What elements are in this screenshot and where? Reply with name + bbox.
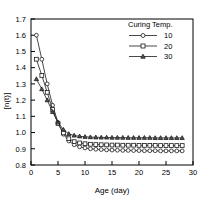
marker-circle	[78, 145, 82, 149]
marker-square	[110, 143, 114, 147]
marker-square	[170, 144, 174, 148]
marker-circle	[89, 147, 93, 151]
marker-triangle	[83, 135, 87, 139]
x-tick-label: 25	[162, 168, 170, 177]
marker-circle	[45, 82, 49, 86]
marker-square	[121, 143, 125, 147]
marker-circle	[141, 34, 145, 38]
marker-square	[132, 143, 136, 147]
marker-square	[94, 143, 98, 147]
marker-circle	[159, 149, 163, 153]
marker-square	[72, 140, 76, 144]
marker-triangle	[169, 136, 173, 140]
marker-triangle	[72, 133, 76, 137]
y-tick-label: 1.6	[16, 31, 26, 40]
marker-triangle	[45, 98, 49, 102]
marker-circle	[164, 149, 168, 153]
marker-triangle	[105, 135, 109, 139]
legend-label: 10	[164, 31, 172, 40]
marker-circle	[148, 149, 152, 153]
line-chart: 0.80.91.01.11.21.31.41.51.61.7 051015202…	[0, 0, 206, 213]
series-line	[36, 59, 182, 145]
y-tick-label: 1.5	[16, 47, 26, 56]
y-tick-label: 1.2	[16, 96, 26, 105]
marker-square	[116, 143, 120, 147]
legend: Curing Temp.102030	[128, 20, 172, 61]
marker-circle	[121, 149, 125, 153]
marker-circle	[83, 146, 87, 150]
y-tick-label: 0.8	[16, 161, 26, 170]
marker-triangle	[142, 136, 146, 140]
marker-square	[45, 90, 49, 94]
marker-triangle	[164, 136, 168, 140]
marker-triangle	[153, 136, 157, 140]
marker-circle	[40, 57, 44, 61]
marker-circle	[175, 149, 179, 153]
legend-label: 20	[164, 42, 172, 51]
marker-square	[78, 141, 82, 145]
figure-container: 0.80.91.01.11.21.31.41.51.61.7 051015202…	[0, 0, 206, 213]
series-line	[36, 79, 182, 138]
marker-square	[180, 144, 184, 148]
marker-square	[148, 143, 152, 147]
marker-square	[35, 57, 39, 61]
marker-circle	[35, 33, 39, 37]
x-tick-label: 30	[189, 168, 197, 177]
x-tick-label: 10	[81, 168, 89, 177]
marker-circle	[143, 149, 147, 153]
series-10	[35, 33, 185, 152]
marker-triangle	[99, 135, 103, 139]
series-30	[34, 77, 184, 140]
marker-triangle	[34, 77, 38, 81]
x-tick-label: 20	[135, 168, 143, 177]
marker-square	[67, 137, 71, 141]
y-tick-label: 1.1	[16, 112, 26, 121]
marker-square	[99, 143, 103, 147]
y-tick-label: 1.3	[16, 80, 26, 89]
marker-triangle	[126, 136, 130, 140]
series-layer	[34, 33, 184, 152]
marker-square	[175, 144, 179, 148]
marker-triangle	[175, 136, 179, 140]
marker-square	[164, 144, 168, 148]
marker-square	[105, 143, 109, 147]
x-tick-label: 0	[29, 168, 33, 177]
marker-triangle	[137, 136, 141, 140]
marker-triangle	[180, 136, 184, 140]
y-axis-title: [n(t)]	[2, 93, 11, 109]
marker-circle	[99, 148, 103, 152]
marker-square	[153, 143, 157, 147]
y-tick-label: 0.9	[16, 145, 26, 154]
x-tick-label: 15	[108, 168, 116, 177]
marker-triangle	[78, 134, 82, 138]
marker-triangle	[110, 135, 114, 139]
legend-label: 30	[164, 52, 172, 61]
marker-circle	[105, 148, 109, 152]
series-line	[36, 35, 182, 151]
marker-circle	[170, 149, 174, 153]
marker-triangle	[121, 135, 125, 139]
marker-triangle	[132, 136, 136, 140]
marker-circle	[94, 147, 98, 151]
marker-square	[141, 44, 145, 48]
x-axis-title: Age (day)	[95, 186, 130, 195]
marker-square	[83, 142, 87, 146]
marker-circle	[110, 148, 114, 152]
marker-triangle	[148, 136, 152, 140]
marker-circle	[132, 149, 136, 153]
x-axis-ticks: 051015202530	[29, 161, 197, 177]
marker-triangle	[159, 136, 163, 140]
marker-square	[143, 143, 147, 147]
marker-square	[137, 143, 141, 147]
marker-circle	[137, 149, 141, 153]
marker-triangle	[88, 135, 92, 139]
marker-circle	[116, 148, 120, 152]
marker-circle	[153, 149, 157, 153]
x-tick-label: 5	[56, 168, 60, 177]
marker-square	[159, 144, 163, 148]
legend-title: Curing Temp.	[128, 20, 172, 29]
y-tick-label: 1.0	[16, 128, 26, 137]
y-tick-label: 1.7	[16, 15, 26, 24]
series-20	[35, 57, 185, 147]
marker-triangle	[40, 87, 44, 91]
